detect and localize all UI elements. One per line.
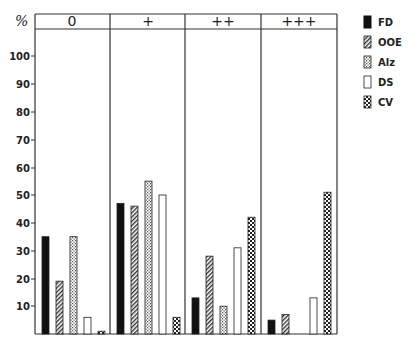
tick-20: 20	[16, 274, 30, 285]
bar-ooe-2	[206, 256, 213, 334]
bar-fd-2	[192, 298, 199, 334]
tick-30: 30	[16, 246, 30, 257]
bar-fd-0	[42, 237, 49, 334]
bar-cv-0	[98, 331, 105, 334]
legend-cv: CV	[378, 97, 393, 108]
header-plus: +	[142, 13, 154, 29]
bar-alz-0	[70, 237, 77, 334]
bar-ds-3	[310, 298, 317, 334]
legend-swatch-ooe	[364, 36, 371, 48]
bar-cv-1	[173, 317, 180, 334]
bar-ooe-3	[282, 315, 289, 334]
legend-swatch-ds	[364, 76, 371, 88]
legend-swatch-fd	[364, 16, 371, 28]
bar-cv-2	[248, 217, 255, 334]
legend-alz: Alz	[378, 57, 395, 68]
bar-ds-2	[234, 248, 241, 334]
tick-40: 40	[16, 218, 30, 229]
bar-ds-1	[159, 195, 166, 334]
tick-50: 50	[16, 190, 30, 201]
tick-10: 10	[16, 301, 30, 312]
tick-80: 80	[16, 107, 30, 118]
bar-ds-0	[84, 317, 91, 334]
bar-fd-3	[268, 320, 275, 334]
legend-fd: FD	[378, 17, 393, 28]
tick-70: 70	[16, 135, 30, 146]
legend-swatch-cv	[364, 96, 371, 108]
header-plus3: +++	[281, 13, 316, 29]
plot-frame	[35, 14, 337, 334]
legend-ooe: OOE	[378, 37, 402, 48]
header-band: % 0 + ++ +++	[15, 13, 337, 29]
bar-ooe-0	[56, 281, 63, 334]
bar-ooe-1	[131, 206, 138, 334]
tick-90: 90	[16, 79, 30, 90]
legend: FD OOE Alz DS CV	[364, 16, 402, 108]
header-0: 0	[68, 13, 77, 29]
bars	[42, 181, 331, 334]
y-unit-label: %	[15, 13, 28, 29]
header-plus2: ++	[211, 13, 234, 29]
bar-chart: % 0 + ++ +++ 100 90 80 70 60 50 40 30 20	[0, 0, 409, 348]
tick-100: 100	[9, 51, 30, 62]
bar-cv-3	[324, 192, 331, 334]
bar-alz-1	[145, 181, 152, 334]
bar-alz-2	[220, 306, 227, 334]
legend-swatch-alz	[364, 56, 371, 68]
tick-60: 60	[16, 163, 30, 174]
bar-fd-1	[117, 203, 124, 334]
legend-ds: DS	[378, 77, 394, 88]
y-axis: 100 90 80 70 60 50 40 30 20 10	[9, 51, 35, 312]
